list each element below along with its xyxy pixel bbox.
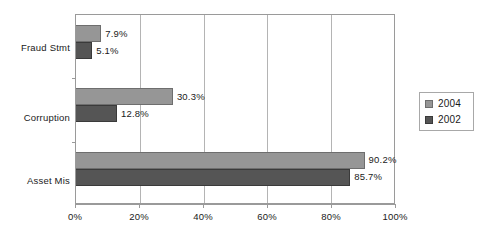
legend-swatch-icon-2004 xyxy=(425,100,433,108)
x-axis-label-40: 40% xyxy=(193,211,213,222)
bar-fraud-stmt-2004[interactable] xyxy=(76,25,101,42)
bar-group-corruption-2002: 12.8% xyxy=(76,105,149,122)
x-axis-tick-20 xyxy=(139,204,140,208)
x-axis-tick-40 xyxy=(203,204,204,208)
bar-value-fraud-stmt-2002: 5.1% xyxy=(92,46,118,56)
bar-group-asset-mis-2004: 90.2% xyxy=(76,152,397,169)
bar-corruption-2002[interactable] xyxy=(76,105,117,122)
legend-item-2002[interactable]: 2002 xyxy=(425,114,469,125)
bar-group-fraud-stmt-2002: 5.1% xyxy=(76,42,119,59)
chart-legend: 2004 2002 xyxy=(419,92,474,131)
bar-value-fraud-stmt-2004: 7.9% xyxy=(101,29,127,39)
bar-value-corruption-2002: 12.8% xyxy=(117,109,149,119)
category-group-asset-mis: 90.2% 85.7% xyxy=(76,142,394,205)
x-axis-label-80: 80% xyxy=(321,211,341,222)
bar-group-fraud-stmt-2004: 7.9% xyxy=(76,25,128,42)
x-axis-label-100: 100% xyxy=(382,211,407,222)
x-axis-label-0: 0% xyxy=(68,211,82,222)
bar-value-asset-mis-2002: 85.7% xyxy=(350,172,382,182)
bar-value-corruption-2004: 30.3% xyxy=(173,92,205,102)
x-axis-tick-80 xyxy=(331,204,332,208)
category-label-corruption: Corruption xyxy=(0,112,70,123)
category-group-fraud-stmt: 7.9% 5.1% xyxy=(76,15,394,78)
legend-swatch-icon-2002 xyxy=(425,116,433,124)
x-axis-tick-60 xyxy=(267,204,268,208)
plot-area: 7.9% 5.1% 30.3% 12.8% 90.2% xyxy=(75,14,395,204)
legend-item-2004[interactable]: 2004 xyxy=(425,98,469,109)
bar-fraud-stmt-2002[interactable] xyxy=(76,42,92,59)
bar-asset-mis-2002[interactable] xyxy=(76,169,350,186)
legend-label-2002: 2002 xyxy=(438,114,461,125)
x-axis-tick-100 xyxy=(395,204,396,208)
x-axis-label-60: 60% xyxy=(257,211,277,222)
bar-value-asset-mis-2004: 90.2% xyxy=(365,155,397,165)
bar-group-corruption-2004: 30.3% xyxy=(76,88,205,105)
bar-group-asset-mis-2002: 85.7% xyxy=(76,169,382,186)
x-axis-label-20: 20% xyxy=(129,211,149,222)
x-axis-line xyxy=(75,204,395,205)
category-label-fraud-stmt: Fraud Stmt xyxy=(0,42,70,53)
category-group-corruption: 30.3% 12.8% xyxy=(76,78,394,141)
bar-chart: Fraud Stmt Corruption Asset Mis 7.9% 5.1… xyxy=(0,0,485,248)
x-axis-tick-0 xyxy=(75,204,76,208)
bar-asset-mis-2004[interactable] xyxy=(76,152,365,169)
legend-label-2004: 2004 xyxy=(438,98,461,109)
bar-corruption-2004[interactable] xyxy=(76,88,173,105)
category-label-asset-mis: Asset Mis xyxy=(0,175,70,186)
